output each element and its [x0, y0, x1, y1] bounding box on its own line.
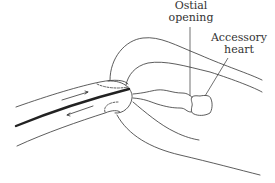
body-inner-dorsal: [126, 62, 262, 92]
duct-top: [133, 90, 192, 97]
accessory-heart: [191, 95, 212, 115]
tube-tip-dashed-top: [97, 84, 128, 88]
needle-thick: [16, 89, 129, 126]
label-ostial-opening: Ostial opening: [167, 0, 215, 24]
label-ostial-line2: opening: [167, 12, 215, 24]
label-accessory-heart: Accessory heart: [204, 32, 274, 56]
tube-tip: [108, 81, 132, 113]
diagram-drawing: [0, 0, 275, 183]
body-lower-outer: [117, 115, 260, 175]
flow-arrow-left: [67, 106, 93, 115]
label-heart-line2: heart: [204, 44, 274, 56]
flow-arrow-right: [62, 92, 88, 100]
body-lower-inner: [133, 102, 199, 140]
duct-bottom: [133, 98, 191, 112]
diagram-canvas: Ostial opening Accessory heart: [0, 0, 275, 183]
